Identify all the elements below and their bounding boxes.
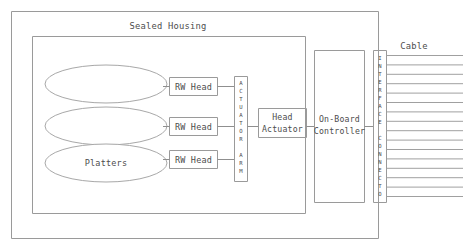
rw-head-label-2: RW Head [175, 122, 212, 132]
actuator-arm-char-0: A [239, 80, 243, 86]
actuator-arm-label: A C T U A T O R A R M [239, 80, 243, 174]
interface-connector-char-14: E [378, 167, 382, 173]
cable-label: Cable [400, 41, 427, 51]
actuator-arm-char-7: R [239, 136, 243, 142]
actuator-arm-char-2: T [239, 96, 243, 102]
rw-head-label-3: RW Head [175, 155, 212, 165]
controller-label-line2: Controller [314, 126, 365, 136]
interface-connector-char-10: C [378, 135, 381, 141]
diagram-canvas: Sealed Housing Platters RW Head RW Head … [0, 0, 463, 252]
sealed-housing-title: Sealed Housing [130, 21, 207, 31]
actuator-arm-char-4: A [239, 112, 243, 118]
interface-connector-char-16: T [378, 183, 382, 189]
cable-ribbon-lines [387, 56, 463, 197]
actuator-arm-char-11: M [239, 168, 243, 174]
actuator-arm-char-10: R [239, 160, 243, 166]
actuator-arm-char-6: O [239, 128, 243, 134]
head-actuator-label-line1: Head [272, 112, 293, 122]
interface-connector-char-4: R [378, 87, 382, 93]
platter-ellipse-top [45, 65, 167, 103]
hdd-architecture-diagram: Sealed Housing Platters RW Head RW Head … [0, 0, 463, 252]
interface-connector-char-15: C [378, 175, 381, 181]
rw-head-label-1: RW Head [175, 82, 212, 92]
interface-connector-char-2: T [378, 71, 382, 77]
platters-label: Platters [85, 158, 128, 168]
actuator-arm-char-9: A [239, 152, 243, 158]
interface-connector-char-3: E [378, 79, 382, 85]
interface-connector-char-12: N [378, 151, 381, 157]
actuator-arm-char-5: T [239, 120, 243, 126]
interface-connector-char-8: E [378, 119, 382, 125]
interface-connector-char-1: N [378, 63, 381, 69]
actuator-arm-char-1: C [239, 88, 242, 94]
head-actuator-label-line2: Actuator [262, 124, 303, 134]
actuator-arm-char-3: U [239, 104, 242, 110]
interface-connector-char-0: I [378, 55, 381, 61]
interface-connector-char-6: A [378, 103, 382, 109]
interface-connector-char-7: C [378, 111, 381, 117]
interface-connector-char-5: F [378, 95, 382, 101]
interface-connector-char-17: O [378, 191, 382, 197]
interface-connector-char-13: N [378, 159, 381, 165]
interface-connector-char-11: O [378, 143, 382, 149]
platter-ellipse-middle [45, 107, 167, 145]
controller-label-line1: On-Board [319, 114, 360, 124]
